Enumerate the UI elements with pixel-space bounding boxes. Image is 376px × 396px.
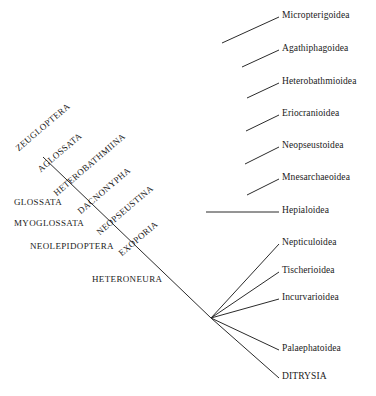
tip-label-incurvarioidea: Incurvarioidea [282, 292, 339, 302]
terminal-branch-10 [211, 318, 279, 350]
terminal-branch-5 [247, 179, 279, 195]
tip-label-tischerioidea: Tischerioidea [282, 265, 335, 275]
tip-label-micropterigoidea: Micropterigoidea [282, 10, 350, 20]
terminal-branch-0 [222, 17, 279, 43]
terminal-branch-9 [211, 299, 279, 318]
tip-label-heterobathmioidea: Heterobathmioidea [282, 76, 357, 86]
tip-label-ditrysia: DITRYSIA [282, 371, 327, 381]
cladogram-canvas: MicropterigoideaAgathiphagoideaHeterobat… [0, 0, 376, 396]
tip-label-agathiphagoidea: Agathiphagoidea [282, 43, 348, 53]
clade-label-myoglossata: MYOGLOSSATA [14, 218, 84, 228]
tip-label-nepticuloidea: Nepticuloidea [282, 237, 337, 247]
terminal-branch-8 [211, 272, 279, 318]
terminal-branch-11 [211, 318, 279, 378]
tip-label-palaephatoidea: Palaephatoidea [282, 343, 341, 353]
terminal-branch-1 [242, 50, 279, 67]
terminal-branch-7 [211, 244, 279, 318]
terminal-branches [206, 17, 279, 378]
tip-label-neopseustoidea: Neopseustoidea [282, 140, 344, 150]
tip-label-mnesarchaeoidea: Mnesarchaeoidea [282, 172, 350, 182]
terminal-branch-4 [245, 147, 279, 164]
clade-label-neolepidoptera: NEOLEPIDOPTERA [30, 241, 114, 251]
terminal-branch-2 [247, 83, 279, 98]
terminal-branch-3 [246, 115, 279, 131]
clade-label-heteroneura: HETERONEURA [92, 274, 162, 284]
tip-label-hepialoidea: Hepialoidea [282, 205, 329, 215]
clade-label-glossata: GLOSSATA [14, 197, 62, 207]
tip-label-eriocranioidea: Eriocranioidea [282, 108, 339, 118]
